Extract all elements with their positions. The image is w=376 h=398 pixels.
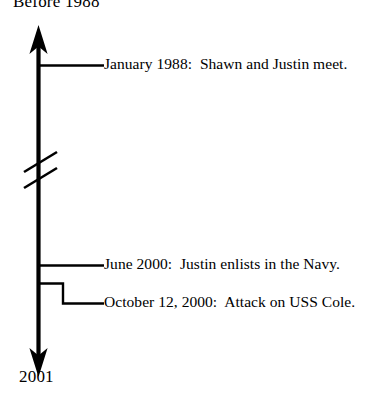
event-label-october-2000: October 12, 2000: Attack on USS Cole. [104,293,355,311]
event-connector-2 [39,284,104,304]
event-label-june-2000: June 2000: Justin enlists in the Navy. [104,255,340,273]
timeline-start-label: Before 1988 [13,0,100,11]
timeline-end-label: 2001 [19,367,54,386]
timeline-diagram: Before 1988 2001 January 1988: Shawn and… [0,0,376,398]
event-label-january-1988: January 1988: Shawn and Justin meet. [104,55,347,73]
